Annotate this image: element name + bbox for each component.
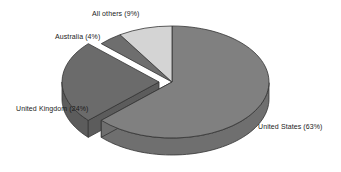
- slice-label-united-states: United States (63%): [258, 122, 323, 131]
- pie-chart-graphic: [0, 0, 341, 172]
- slice-label-australia: Australia (4%): [55, 32, 100, 41]
- pie-chart-figure: All others (9%) Australia (4%) United Ki…: [0, 0, 341, 172]
- slice-label-united-kingdom: United Kingdom (24%): [16, 104, 88, 113]
- slice-label-all-others: All others (9%): [92, 9, 139, 18]
